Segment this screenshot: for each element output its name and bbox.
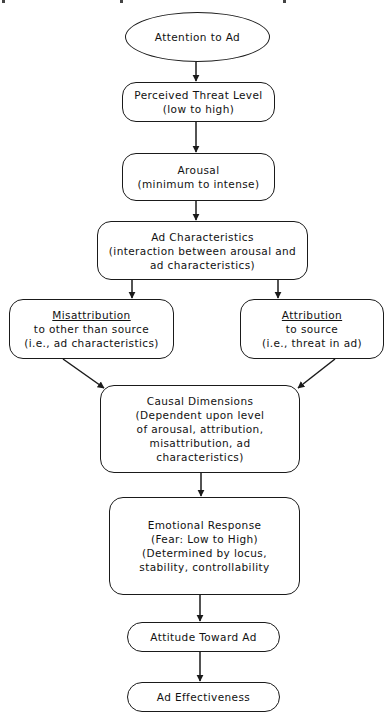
node-label: Ad Effectiveness xyxy=(157,690,250,704)
node-title-underlined: Misattribution xyxy=(52,308,130,322)
node-sublabel: (low to high) xyxy=(163,102,234,116)
node-label: Ad Characteristics xyxy=(151,230,254,244)
node-arousal: Arousal (minimum to intense) xyxy=(122,153,275,201)
node-attitude-toward-ad: Attitude Toward Ad xyxy=(127,622,280,652)
node-label: Perceived Threat Level xyxy=(134,88,262,102)
node-sublabel: stability, controllability xyxy=(139,560,269,574)
node-label: Attitude Toward Ad xyxy=(150,630,256,644)
node-sublabel: of arousal, attribution, xyxy=(137,422,264,436)
node-sublabel: (Determined by locus, xyxy=(142,546,267,560)
node-sublabel: to source xyxy=(286,322,338,336)
node-ad-characteristics: Ad Characteristics (interaction between … xyxy=(97,221,308,280)
node-label: Arousal xyxy=(178,163,220,177)
node-sublabel: (Fear: Low to High) xyxy=(151,532,258,546)
node-sublabel: ad characteristics) xyxy=(150,258,255,272)
node-label: Attention to Ad xyxy=(155,30,240,44)
node-causal-dimensions: Causal Dimensions (Dependent upon level … xyxy=(100,385,300,473)
node-label: Emotional Response xyxy=(148,518,262,532)
arrow-misattribution-to-causal xyxy=(63,359,104,388)
node-attribution: Attribution to source (i.e., threat in a… xyxy=(240,299,384,359)
node-emotional-response: Emotional Response (Fear: Low to High) (… xyxy=(109,497,300,595)
node-misattribution: Misattribution to other than source (i.e… xyxy=(9,299,174,359)
node-sublabel: to other than source xyxy=(34,322,149,336)
node-sublabel: characteristics) xyxy=(156,450,243,464)
node-sublabel: (interaction between arousal and xyxy=(109,244,296,258)
node-attention-to-ad: Attention to Ad xyxy=(125,12,270,62)
node-sublabel: (i.e., ad characteristics) xyxy=(24,336,159,350)
node-sublabel: (Dependent upon level xyxy=(136,408,265,422)
node-label: Causal Dimensions xyxy=(147,394,254,408)
node-sublabel: (minimum to intense) xyxy=(138,177,260,191)
node-title-underlined: Attribution xyxy=(282,308,342,322)
node-sublabel: misattribution, ad xyxy=(150,436,251,450)
arrow-attribution-to-causal xyxy=(298,359,335,388)
node-sublabel: (i.e., threat in ad) xyxy=(262,336,362,350)
node-perceived-threat-level: Perceived Threat Level (low to high) xyxy=(122,82,275,122)
node-ad-effectiveness: Ad Effectiveness xyxy=(127,682,280,712)
